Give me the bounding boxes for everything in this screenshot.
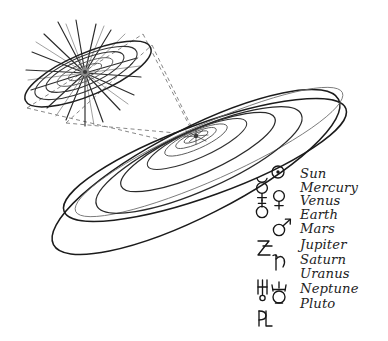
legend-label-earth: Earth xyxy=(299,207,338,222)
legend-label-neptune: Neptune xyxy=(299,281,359,296)
legend-label-pluto: Pluto xyxy=(299,296,335,311)
legend-label-mars: Mars xyxy=(299,221,335,236)
legend-label-sun: Sun xyxy=(300,166,326,181)
legend-label-uranus: Uranus xyxy=(300,266,350,281)
solar-system-figure: Sun Mercury Venus xyxy=(0,0,388,341)
figure-canvas: Sun Mercury Venus xyxy=(0,0,388,341)
legend-label-venus: Venus xyxy=(300,193,341,208)
inset-sun xyxy=(81,68,90,77)
legend-label-jupiter: Jupiter xyxy=(297,237,347,252)
legend-label-saturn: Saturn xyxy=(300,252,346,267)
